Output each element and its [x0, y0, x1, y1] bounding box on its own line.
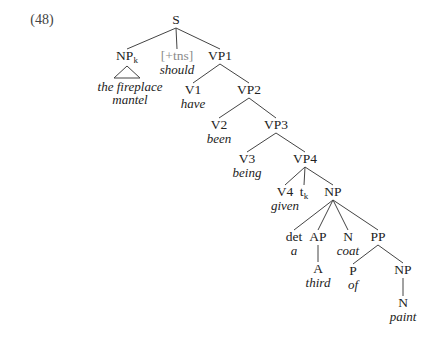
node-word: mantel — [112, 92, 148, 107]
tree-edge-S-NPk — [127, 28, 176, 49]
tree-node-det: deta — [286, 229, 303, 258]
tree-edge-S-VP1 — [176, 28, 220, 49]
tree-node-vp1: VP1 — [208, 48, 232, 63]
tree-edge-VP4-tk — [304, 167, 305, 185]
node-label: VP1 — [208, 48, 232, 63]
tree-node-s: S — [172, 12, 180, 27]
tree-node-vp2: VP2 — [237, 82, 261, 97]
node-label: V3 — [239, 151, 256, 166]
node-word: should — [160, 62, 195, 77]
node-label: VP3 — [264, 117, 288, 132]
tree-node-vp3: VP3 — [264, 117, 288, 132]
tree-node-np2: NP — [394, 262, 411, 277]
tree-edge-PP-NP2 — [378, 245, 403, 263]
tree-node-v4: V4given — [271, 184, 299, 213]
tree-node-a: Athird — [306, 261, 331, 290]
node-word: given — [271, 198, 299, 213]
node-label: V1 — [185, 82, 202, 97]
tree-nodes: SNPkthe fireplacemantel[+tns]shouldVP1V1… — [98, 12, 417, 324]
tree-node-tk: tk — [300, 184, 309, 201]
node-label: NP — [394, 262, 411, 277]
node-label: N — [343, 229, 353, 244]
tree-node-v2: V2been — [207, 117, 232, 146]
node-word: coat — [337, 243, 360, 258]
tree-edge-VP2-VP3 — [249, 98, 276, 118]
node-label: NPk — [116, 48, 138, 65]
tree-edge-VP3-V3 — [247, 133, 276, 152]
node-word: of — [348, 277, 361, 292]
tree-edge-NP-det — [294, 200, 333, 230]
tree-edge-VP2-V2 — [219, 98, 249, 118]
node-label: V4 — [277, 184, 294, 199]
tree-node-tns: [+tns]should — [160, 48, 195, 77]
tree-edge-S-tns — [176, 28, 177, 49]
tree-edge-VP4-NP — [305, 167, 333, 185]
tree-node-pp: PP — [370, 229, 385, 244]
node-label: VP4 — [293, 151, 317, 166]
tree-node-np: NP — [324, 184, 341, 199]
node-label: NP — [324, 184, 341, 199]
node-label: PP — [370, 229, 385, 244]
tree-edge-VP4-V4 — [285, 167, 305, 185]
tree-edge-VP3-VP4 — [276, 133, 305, 152]
node-label: [+tns] — [161, 48, 193, 63]
tree-node-p: Pof — [348, 263, 361, 292]
node-word: paint — [389, 309, 417, 324]
tree-node-vp4: VP4 — [293, 151, 317, 166]
node-label: S — [172, 12, 180, 27]
node-label: A — [313, 261, 323, 276]
tree-node-v3: V3being — [233, 151, 262, 180]
node-subscript: k — [133, 55, 138, 65]
tree-node-ap: AP — [309, 229, 326, 244]
node-label: tk — [300, 184, 309, 201]
tree-edge-NP-PP — [333, 200, 378, 230]
node-subscript: k — [304, 191, 309, 201]
triangle-abbreviation — [114, 66, 140, 78]
tree-node-n2: Npaint — [389, 295, 417, 324]
node-label: V2 — [211, 117, 228, 132]
tree-node-npk: NPkthe fireplacemantel — [98, 48, 163, 107]
node-word: being — [233, 165, 262, 180]
node-word: third — [306, 275, 331, 290]
node-label: AP — [309, 229, 326, 244]
tree-edge-VP1-VP2 — [220, 64, 249, 83]
tree-node-v1: V1have — [181, 82, 206, 111]
example-number: (48) — [30, 12, 54, 28]
node-word: a — [291, 243, 298, 258]
node-word: been — [207, 131, 232, 146]
tree-edge-NP-AP — [318, 200, 333, 230]
node-label: det — [286, 229, 303, 244]
node-label: VP2 — [237, 82, 261, 97]
node-label: N — [398, 295, 408, 310]
node-label: P — [349, 263, 357, 278]
tree-edge-VP1-V1 — [193, 64, 220, 83]
node-word: have — [181, 96, 206, 111]
tree-node-n1: Ncoat — [337, 229, 360, 258]
syntax-tree-diagram: SNPkthe fireplacemantel[+tns]shouldVP1V1… — [0, 0, 435, 337]
